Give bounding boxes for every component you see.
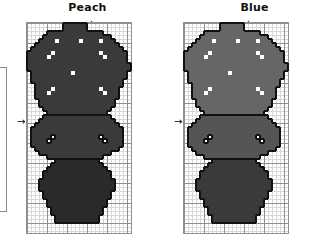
stitch-outline <box>118 147 120 151</box>
stitch-outline <box>195 151 197 155</box>
stitch-outline <box>199 195 201 199</box>
stitch-outline <box>259 211 261 215</box>
stitch-outline <box>207 211 209 215</box>
pattern-page: Peach ↓ → Blue ↓ → <box>0 0 331 247</box>
stitch-outline <box>42 195 44 199</box>
stitch-outline <box>42 107 44 111</box>
stitch-outline <box>203 203 205 207</box>
stitch-outline <box>287 67 289 71</box>
stitch-outline <box>279 143 281 147</box>
left-center-arrow-blue: → <box>174 117 182 127</box>
stitch-outline <box>267 195 269 199</box>
panel-title-blue: Blue <box>178 1 331 14</box>
stitch-outline <box>34 95 36 99</box>
stitch-outline <box>122 83 124 87</box>
stitch-outline <box>271 103 273 107</box>
stitch-outline <box>204 142 208 144</box>
stitch-outline <box>267 151 269 155</box>
stitch-outline <box>255 219 257 223</box>
stitch-outline <box>46 155 48 159</box>
stitch-outline <box>54 219 56 223</box>
legend-box-cutoff <box>0 67 7 212</box>
stitch-outline <box>271 187 273 191</box>
stitch-outline <box>46 203 48 207</box>
stitch-outline <box>130 67 132 71</box>
stitch-outline <box>263 203 265 207</box>
stitch-outline <box>114 103 116 107</box>
stitch-outline <box>38 103 40 107</box>
panel-title-peach: Peach <box>0 1 175 14</box>
stitch-outline <box>267 107 269 111</box>
stitch-outline <box>260 142 264 144</box>
stitch-outline <box>126 75 128 79</box>
stitch-outline <box>275 147 277 151</box>
stitch-outline <box>191 95 193 99</box>
stitch-outline <box>30 143 32 147</box>
stitch-outline <box>187 79 189 83</box>
stitch-outline <box>275 95 277 99</box>
stitch-outline <box>59 30 63 32</box>
stitch-outline <box>50 211 52 215</box>
stitch-outline <box>98 219 100 223</box>
stitch-outline <box>110 195 112 199</box>
stitch-outline <box>283 75 285 79</box>
stitch-outline <box>122 143 124 147</box>
stitch-outline <box>110 107 112 111</box>
stitch-outline <box>106 203 108 207</box>
stitch-outline <box>38 151 40 155</box>
stitch-outline <box>259 155 261 159</box>
stitch-outline <box>279 83 281 87</box>
stitch-outline <box>26 67 28 71</box>
stitch-outline <box>47 142 51 144</box>
stitch-outline <box>102 211 104 215</box>
stitch-outline <box>34 147 36 151</box>
stitch-outline <box>191 147 193 151</box>
left-center-arrow-peach: → <box>17 117 25 127</box>
stitch-outline <box>211 219 213 223</box>
stitch-outline <box>183 67 185 71</box>
stitch-outline <box>103 142 107 144</box>
stitch-outline <box>102 155 104 159</box>
stitch-outline <box>187 143 189 147</box>
stitch-outline <box>30 79 32 83</box>
stitch-outline <box>118 95 120 99</box>
stitch-outline <box>199 107 201 111</box>
stitch-outline <box>195 187 197 191</box>
stitch-outline <box>114 187 116 191</box>
stitch-outline <box>38 187 40 191</box>
stitch-outline <box>195 103 197 107</box>
stitch-outline <box>203 155 205 159</box>
stitch-outline <box>110 151 112 155</box>
stitch-outline <box>216 30 220 32</box>
